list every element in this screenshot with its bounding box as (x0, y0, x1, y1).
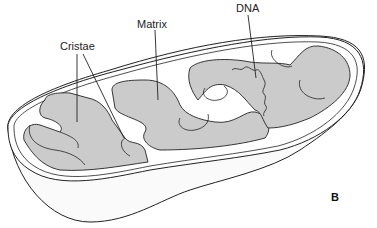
matrix-label: Matrix (137, 19, 167, 30)
mitochondrion-illustration (0, 0, 377, 228)
mitochondrion-diagram: Cristae Matrix DNA B (0, 0, 377, 228)
dna-label: DNA (236, 3, 259, 14)
panel-letter: B (331, 191, 339, 203)
cristae-label: Cristae (60, 41, 95, 52)
